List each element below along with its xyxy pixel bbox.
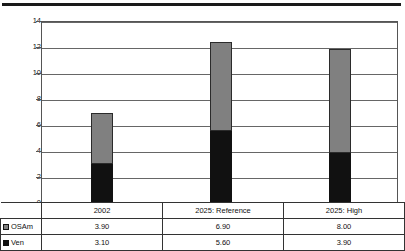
value-osam-1: 6.90 xyxy=(163,219,284,235)
legend-item-ven: Ven xyxy=(1,235,42,251)
table-row-categories: 2002 2025: Reference 2025: High xyxy=(1,203,405,219)
legend-swatch-ven-icon xyxy=(3,240,9,246)
value-ven-0: 3.10 xyxy=(42,235,163,251)
bar-2002 xyxy=(91,113,113,204)
table-row: OSAm 3.90 6.90 8.00 xyxy=(1,219,405,235)
bar-segment-ven-2 xyxy=(329,153,351,204)
category-header-0: 2002 xyxy=(42,203,163,219)
y-axis: 02468101214 xyxy=(0,21,41,203)
category-header-1: 2025: Reference xyxy=(163,203,284,219)
legend-item-osam: OSAm xyxy=(1,219,42,235)
table-row: Ven 3.10 5.60 3.90 xyxy=(1,235,405,251)
bar-2025-reference xyxy=(210,42,232,205)
bar-segment-ven-0 xyxy=(91,164,113,204)
bar-segment-osam-2 xyxy=(329,49,351,153)
table-corner-cell xyxy=(1,203,42,219)
legend-label-osam: OSAm xyxy=(11,222,33,231)
bar-2025-high xyxy=(329,49,351,204)
plot-area xyxy=(41,21,398,203)
header-rule xyxy=(2,3,401,6)
bar-segment-osam-0 xyxy=(91,113,113,164)
value-ven-2: 3.90 xyxy=(284,235,405,251)
value-osam-0: 3.90 xyxy=(42,219,163,235)
chart-data-table: 2002 2025: Reference 2025: High OSAm 3.9… xyxy=(0,202,405,251)
value-ven-1: 5.60 xyxy=(163,235,284,251)
stacked-bar-chart: 02468101214 xyxy=(0,12,405,208)
gridline-14 xyxy=(42,22,397,23)
legend-swatch-osam-icon xyxy=(3,224,9,230)
category-header-2: 2025: High xyxy=(284,203,405,219)
value-osam-2: 8.00 xyxy=(284,219,405,235)
bar-segment-osam-1 xyxy=(210,42,232,132)
legend-label-ven: Ven xyxy=(11,238,24,247)
bar-segment-ven-1 xyxy=(210,131,232,204)
